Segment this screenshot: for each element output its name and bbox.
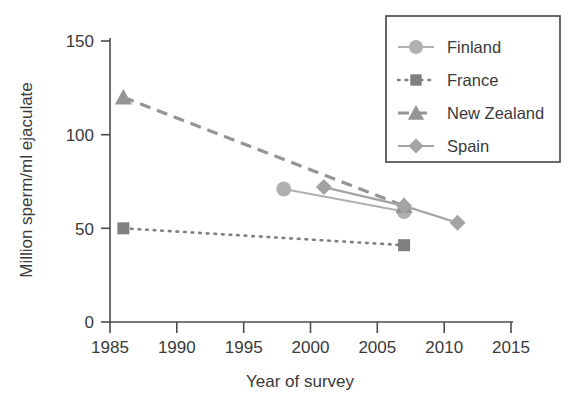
data-point (316, 179, 332, 195)
legend-label: France (447, 71, 498, 89)
y-axis-ticks (101, 41, 110, 322)
x-tick-label-2010: 2010 (425, 338, 463, 357)
x-axis-title: Year of survey (246, 372, 355, 391)
square-marker-icon (410, 74, 421, 85)
legend-label: Finland (447, 38, 501, 56)
chart-container: 150 100 50 0 1985 1990 1995 2000 2005 20… (0, 0, 577, 408)
x-tick-label-1990: 1990 (158, 338, 196, 357)
series-finland (276, 181, 411, 218)
data-point (117, 222, 129, 234)
circle-marker-icon (409, 40, 423, 54)
data-point (450, 215, 466, 231)
y-tick-label-100: 100 (66, 126, 94, 145)
y-tick-label-0: 0 (85, 313, 94, 332)
y-axis-title: Million sperm/ml ejaculate (17, 82, 36, 278)
series-line (123, 228, 404, 245)
series-spain (316, 179, 466, 231)
series-france (117, 222, 410, 251)
series-new-zealand (115, 89, 413, 213)
legend-item-finland[interactable]: Finland (398, 38, 501, 56)
line-chart: 150 100 50 0 1985 1990 1995 2000 2005 20… (0, 0, 577, 408)
y-tick-label-50: 50 (75, 220, 94, 239)
x-tick-label-1985: 1985 (91, 338, 129, 357)
series-line (123, 97, 404, 206)
data-point (398, 239, 410, 251)
legend: FinlandFranceNew ZealandSpain (386, 16, 560, 162)
legend-label: Spain (447, 137, 489, 155)
x-axis-ticks (110, 322, 511, 333)
x-tick-label-2005: 2005 (358, 338, 396, 357)
data-point (276, 181, 291, 196)
data-point (115, 89, 132, 105)
legend-label: New Zealand (447, 104, 544, 122)
x-tick-label-1995: 1995 (225, 338, 263, 357)
y-tick-label-150: 150 (66, 32, 94, 51)
x-tick-label-2015: 2015 (492, 338, 530, 357)
series-line (324, 187, 458, 223)
x-tick-label-2000: 2000 (292, 338, 330, 357)
